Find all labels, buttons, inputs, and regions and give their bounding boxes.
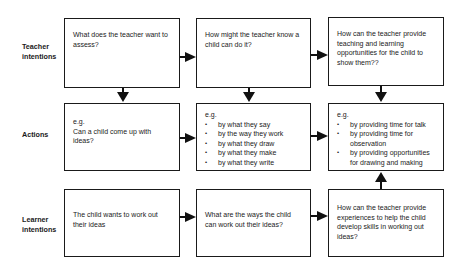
- list-item: by what they write: [205, 158, 302, 168]
- box-teacher-assess: What does the teacher want to assess?: [64, 18, 180, 88]
- box-actions-opportunities: e.g. by providing time for talk by provi…: [328, 103, 444, 171]
- list-item: by providing time for talk: [337, 120, 435, 130]
- arrow-right-icon: [185, 52, 196, 62]
- box-teacher-provide: How can the teacher provide teaching and…: [328, 17, 444, 86]
- box-text: Can a child come up with ideas?: [73, 127, 171, 146]
- list-item: by providing opportunities for drawing a…: [337, 148, 435, 167]
- box-learner-work-out: The child wants to work out their ideas: [64, 189, 180, 257]
- box-text: What are the ways the child can work out…: [205, 210, 302, 229]
- box-teacher-know: How might the teacher know a child can d…: [196, 18, 311, 88]
- row-label-line: Learner: [22, 215, 62, 225]
- eg-label: e.g.: [205, 110, 302, 120]
- arrow-right-icon: [317, 50, 328, 60]
- box-text: What does the teacher want to assess?: [73, 30, 171, 49]
- row-label-line: intentions: [22, 225, 62, 235]
- row-label-learner-intentions: Learner intentions: [22, 215, 62, 235]
- box-learner-ways: What are the ways the child can work out…: [196, 189, 311, 257]
- list-item: by providing time for observation: [337, 129, 435, 148]
- box-actions-evidence: e.g. by what they say by the way they wo…: [196, 103, 311, 171]
- arrow-down-icon: [117, 92, 129, 102]
- row-label-actions: Actions: [22, 130, 62, 140]
- row-label-teacher-intentions: Teacher intentions: [22, 42, 62, 62]
- arrow-right-icon: [185, 212, 196, 222]
- row-label-line: Teacher: [22, 42, 62, 52]
- box-actions-ideas: e.g. Can a child come up with ideas?: [64, 103, 180, 171]
- box-text: How can the teacher provide teaching and…: [337, 29, 435, 67]
- box-text: How can the teacher provide experiences …: [337, 203, 435, 241]
- eg-label: e.g.: [73, 117, 171, 127]
- arrow-right-icon: [317, 211, 328, 221]
- list-item: by the way they work: [205, 129, 302, 139]
- eg-label: e.g.: [337, 110, 435, 120]
- evidence-list: by what they say by the way they work by…: [205, 120, 302, 168]
- opportunities-list: by providing time for talk by providing …: [337, 120, 435, 168]
- box-learner-experiences: How can the teacher provide experiences …: [328, 189, 444, 257]
- row-label-line: Actions: [22, 130, 62, 140]
- arrow-right-icon: [185, 133, 196, 143]
- row-label-line: intentions: [22, 52, 62, 62]
- list-item: by what they draw: [205, 139, 302, 149]
- list-item: by what they make: [205, 148, 302, 158]
- arrow-right-icon: [317, 131, 328, 141]
- arrow-down-icon: [243, 92, 255, 102]
- box-text: How might the teacher know a child can d…: [205, 30, 302, 49]
- list-item: by what they say: [205, 120, 302, 130]
- arrow-down-icon: [375, 92, 387, 102]
- box-text: The child wants to work out their ideas: [73, 210, 171, 229]
- arrow-shaft: [380, 181, 382, 189]
